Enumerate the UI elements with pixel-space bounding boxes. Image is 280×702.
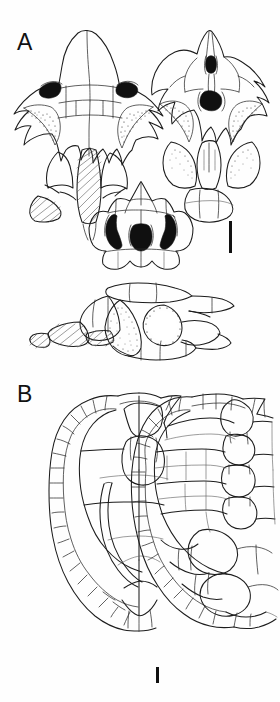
figure-illustration [0, 0, 280, 702]
figure-plate: A B [0, 0, 280, 702]
quadrate-right [227, 142, 261, 188]
hatched-fragment-left [30, 196, 61, 222]
scale-bar-a [229, 221, 232, 253]
hatched-fragment-lateral-tip [30, 333, 50, 348]
scale-bar-b [156, 667, 159, 683]
stipple-cheek [105, 300, 141, 356]
ventral-skull-view [152, 31, 269, 222]
panel-label-a: A [17, 31, 32, 54]
dorsal-skull-view [14, 30, 163, 240]
hatched-band-lateral [86, 330, 114, 346]
stipple-ventral-left [160, 101, 193, 142]
lateral-skull-view [30, 283, 234, 360]
panel-label-b: B [17, 383, 32, 406]
hatched-fragment-lateral-left [48, 322, 89, 347]
posterior-skull-view [89, 182, 193, 270]
orbit-lateral [143, 305, 182, 346]
carapace-right-view [131, 394, 278, 629]
quadrate-left [163, 142, 197, 188]
